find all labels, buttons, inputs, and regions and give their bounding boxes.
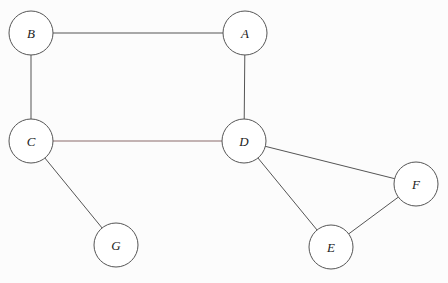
node-label: A: [240, 26, 249, 41]
node-b: B: [9, 11, 53, 55]
node-label: G: [111, 238, 121, 253]
node-a: A: [223, 11, 267, 55]
graph-canvas: ABCDEFG: [0, 0, 448, 283]
node-g: G: [94, 223, 138, 267]
node-d: D: [222, 119, 266, 163]
node-label: D: [238, 134, 249, 149]
node-label: F: [411, 177, 421, 192]
nodes-layer: ABCDEFG: [9, 11, 438, 269]
graph-diagram: ABCDEFG: [0, 0, 448, 283]
edge-d-f: [244, 141, 416, 184]
node-e: E: [309, 225, 353, 269]
node-label: B: [27, 26, 35, 41]
node-label: E: [326, 240, 335, 255]
node-f: F: [394, 162, 438, 206]
node-c: C: [9, 119, 53, 163]
node-label: C: [27, 134, 36, 149]
